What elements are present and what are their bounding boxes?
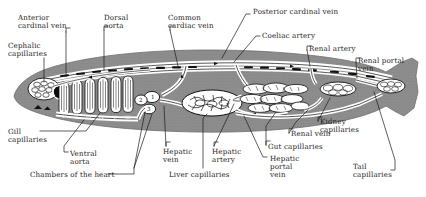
tail-capillaries-mass [377, 79, 405, 93]
leader-hepatic-vein-tick [166, 142, 170, 146]
gill-arch-3-numeral: III [86, 115, 92, 120]
label-anterior-cardinal-vein: Anterior cardinal vein [18, 14, 67, 30]
label-gut-capillaries: Gut capillaries [268, 143, 323, 151]
label-hepatic-artery: Hepatic artery [212, 148, 241, 164]
label-coeliac-artery: Coeliac artery [262, 32, 315, 40]
gill-arch-2-numeral: II [74, 115, 78, 120]
label-cephalic-capillaries: Cephalic capillaries [8, 42, 47, 58]
heart-chamber-1-number: 1 [151, 94, 155, 100]
gill-arch-5-numeral: V [113, 115, 116, 120]
kidney-capillaries-mass [320, 82, 356, 96]
label-hepatic-portal-vein: Hepatic portal vein [270, 155, 299, 180]
label-dorsal-aorta: Dorsal aorta [104, 14, 128, 30]
gut-capillaries-bed [240, 83, 309, 112]
label-liver-capillaries: Liver capillaries [169, 171, 230, 179]
circulatory-system-figure: Anterior cardinal vein Cephalic capillar… [0, 0, 426, 197]
label-tail-capillaries: Tail capillaries [353, 163, 392, 179]
label-hepatic-vein: Hepatic vein [163, 148, 192, 164]
gill-arch-4-numeral: IV [99, 115, 104, 120]
label-common-cardiac-vein: Common cardiac vein [168, 14, 214, 30]
label-ventral-aorta: Ventral aorta [70, 150, 97, 166]
gill-arch-6-numeral: VI [125, 115, 130, 120]
label-kidney-capillaries: Kidney capillaries [320, 118, 359, 134]
leader-ventral-aorta [64, 120, 84, 152]
label-renal-artery: Renal artery [309, 45, 356, 53]
label-gill-capillaries: Gill capillaries [8, 128, 47, 144]
heart-chamber-3-number: 3 [147, 106, 151, 112]
gill-arch-1-numeral: I [62, 114, 64, 119]
label-posterior-cardinal-vein: Posterior cardinal vein [253, 8, 338, 16]
label-renal-portal-vein: Renal portal vein [358, 57, 404, 73]
liver-capillaries-mass [182, 90, 242, 116]
label-chambers-of-the-heart: Chambers of the heart [30, 171, 114, 179]
heart-chamber-2-number: 2 [139, 97, 143, 103]
